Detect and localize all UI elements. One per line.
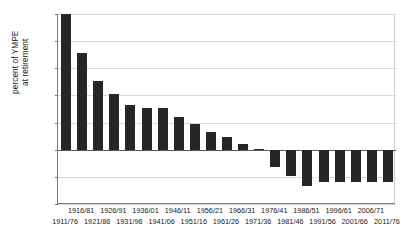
- bar: [335, 150, 345, 183]
- bar: [93, 81, 103, 149]
- bar: [190, 124, 200, 150]
- bar: [77, 53, 87, 149]
- bar: [270, 150, 280, 167]
- bar: [125, 105, 135, 149]
- x-tick-label: 2001/66: [342, 217, 368, 226]
- x-tick-label: 1986/51: [293, 206, 319, 215]
- x-tick-label: 1971/36: [245, 217, 271, 226]
- x-tick-label: 1911/76: [52, 217, 78, 226]
- x-tick-label: 1991/56: [309, 217, 335, 226]
- x-tick-label: 1936/01: [132, 206, 158, 215]
- bar-chart: percent of YMPE at retirement 5004003002…: [0, 0, 401, 252]
- x-tick-label: 1941/06: [148, 217, 174, 226]
- bar: [206, 132, 216, 150]
- x-tick-label: 1966/31: [229, 206, 255, 215]
- x-tick-label: 1921/86: [84, 217, 110, 226]
- bar: [142, 108, 152, 149]
- bar: [61, 14, 71, 150]
- y-axis-title: percent of YMPE at retirement: [11, 7, 32, 117]
- x-tick-label: 1976/41: [261, 206, 287, 215]
- bar: [238, 144, 248, 150]
- bar: [158, 108, 168, 149]
- bar: [254, 149, 264, 150]
- x-tick-label: 1946/11: [165, 206, 191, 215]
- bar-series: [58, 14, 396, 204]
- x-tick-label: 1981/46: [277, 217, 303, 226]
- x-tick-label: 2011/76: [374, 217, 400, 226]
- bar: [383, 150, 393, 183]
- bar: [351, 150, 361, 183]
- x-tick-label: 1956/21: [197, 206, 223, 215]
- bar: [109, 94, 119, 149]
- x-tick-label: 1931/96: [116, 217, 142, 226]
- bar: [319, 150, 329, 183]
- x-tick-label: 1916/81: [68, 206, 94, 215]
- x-axis-labels: 1911/761916/811921/861926/911931/961936/…: [57, 205, 395, 252]
- x-tick-label: 1951/16: [181, 217, 207, 226]
- bar: [302, 150, 312, 186]
- bar: [286, 150, 296, 176]
- x-tick-label: 1996/61: [325, 206, 351, 215]
- bar: [367, 150, 377, 183]
- x-tick-label: 1926/91: [100, 206, 126, 215]
- x-tick-label: 2006/71: [358, 206, 384, 215]
- bar: [222, 137, 232, 150]
- plot-area: 5004003002001000-100-200: [57, 14, 395, 204]
- x-tick-label: 1961/26: [213, 217, 239, 226]
- bar: [174, 117, 184, 150]
